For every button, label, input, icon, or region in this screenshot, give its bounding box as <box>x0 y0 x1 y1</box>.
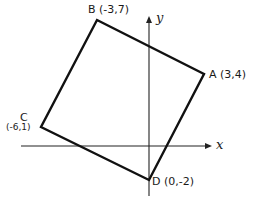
x-axis-arrow-icon <box>205 143 212 149</box>
point-A-label: A (3,4) <box>209 69 246 80</box>
coordinate-diagram <box>0 0 256 203</box>
x-axis-label: x <box>216 138 223 151</box>
point-B-label: B (-3,7) <box>88 4 129 15</box>
point-C-coords: (-6,1) <box>6 123 31 132</box>
y-axis-label: y <box>156 11 163 24</box>
point-D-label: D (0,-2) <box>152 176 194 187</box>
square-ABCD <box>41 20 204 180</box>
y-axis <box>146 16 152 196</box>
x-axis <box>21 143 212 149</box>
y-axis-arrow-icon <box>146 16 152 23</box>
